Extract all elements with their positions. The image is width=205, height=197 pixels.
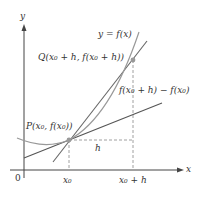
point-q [131,58,136,63]
x-axis-arrow-icon [177,168,184,173]
rise-label: f(x₀ + h) − f(x₀) [119,86,189,95]
curve-label: y = f(x) [98,30,132,39]
secant-diagram: y x 0 y = f(x) Q(x₀ + h, f(x₀ + h)) f(x₀… [0,0,205,197]
x-axis-label: x [186,165,191,174]
point-q-label: Q(x₀ + h, f(x₀ + h)) [38,53,124,62]
point-p [67,138,72,143]
y-axis-label: y [20,12,25,21]
point-p-label: P(x₀, f(x₀)) [26,122,73,131]
y-axis-arrow-icon [22,24,27,31]
x0-tick-label: x₀ [63,176,72,185]
origin-label: 0 [15,174,21,183]
x0h-tick-label: x₀ + h [119,176,147,185]
run-label: h [95,144,101,153]
